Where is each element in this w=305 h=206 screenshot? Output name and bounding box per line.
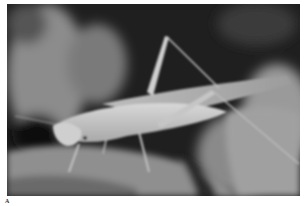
panel-label: A <box>5 197 9 205</box>
grasshopper-photo <box>7 4 300 196</box>
photo-svg <box>7 4 300 196</box>
